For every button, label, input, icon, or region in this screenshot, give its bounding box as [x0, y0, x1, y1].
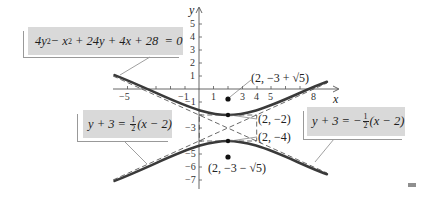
x-tick-label: 8 — [311, 92, 316, 102]
y-tick-label: −5 — [185, 149, 196, 159]
y-tick-label: 4 — [190, 32, 195, 42]
y-tick-label: 1 — [190, 71, 195, 81]
vertex-lower-dot — [226, 139, 230, 143]
y-tick-label: −7 — [185, 175, 196, 185]
x-axis-label: x — [333, 93, 338, 105]
fraction-one-half: 12 — [363, 113, 369, 130]
end-marker — [408, 183, 416, 187]
x-tick-label: 4 — [254, 92, 259, 102]
asymptote-right-equation: y + 3 = − 12 (x − 2) — [312, 107, 404, 136]
y-tick-label: 2 — [190, 58, 195, 68]
x-tick-label: 1 — [211, 92, 216, 102]
hyperbola-equation: 4y2 − x2 + 24y + 4x + 28 = 0 — [35, 27, 182, 55]
fraction-one-half: 12 — [130, 116, 136, 133]
asymptote-left-equation: y + 3 = 12 (x − 2) — [88, 110, 172, 138]
focus-upper-dot — [225, 96, 230, 101]
focus-upper-label: (2, −3 + √5) — [251, 72, 309, 84]
vertex-upper-dot — [226, 113, 230, 117]
y-tick-label: 3 — [190, 45, 195, 55]
y-tick-label: −1 — [185, 97, 196, 107]
focus-lower-label: (2, −3 − √5) — [208, 162, 266, 174]
y-tick-label: −3 — [185, 123, 196, 133]
vertex-upper-label: (2, −2) — [258, 113, 291, 125]
x-tick-label: 3 — [240, 92, 245, 102]
y-axis-label: y — [189, 4, 194, 16]
x-tick-label: −5 — [119, 92, 130, 102]
x-tick-label: 5 — [268, 92, 273, 102]
focus-lower-dot — [225, 154, 230, 159]
y-tick-label: 5 — [190, 19, 195, 29]
vertex-lower-label: (2, −4) — [258, 131, 291, 143]
y-tick-label: −6 — [185, 162, 196, 172]
